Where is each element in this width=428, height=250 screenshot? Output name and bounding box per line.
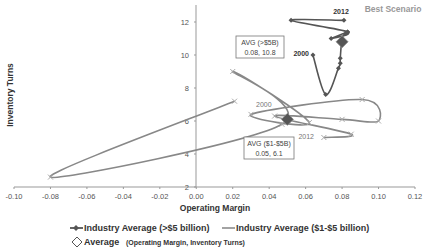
x-tick-label: 0.12: [408, 192, 423, 201]
y-tick-label: 12: [181, 18, 189, 27]
avg-mid-value: 0.05, 6.1: [255, 150, 282, 157]
series-large-companies: [289, 18, 351, 97]
diamond-marker-icon: [336, 66, 341, 71]
avg-large-label: AVG (>$5B): [241, 39, 278, 47]
legend-label-average: Average: [84, 237, 119, 247]
avg-large-annotation: AVG (>$5B) 0.08, 10.8: [236, 36, 284, 58]
x-tick-label: -0.04: [115, 192, 132, 201]
legend-sublabel-average: (Operating Margin, Inventory Turns): [126, 239, 245, 247]
diamond-marker-icon: [310, 53, 315, 58]
legend: Industry Average (>$5 billion) Industry …: [70, 223, 369, 247]
x-tick-label: -0.08: [42, 192, 59, 201]
legend-label-mid: Industry Average ($1-$5 billion): [236, 223, 369, 233]
diamond-marker-icon: [341, 18, 346, 23]
x-axis-title: Operating Margin: [180, 203, 250, 213]
x-tick-label: 0.00: [189, 192, 204, 201]
large-end-year-label: 2012: [333, 8, 349, 15]
x-tick-label: -0.06: [78, 192, 95, 201]
diamond-marker-icon: [338, 56, 343, 61]
diamond-marker-icon: [329, 36, 334, 41]
y-tick-labels: 24681012: [181, 18, 196, 192]
series-mid-companies: [48, 69, 381, 180]
legend-item-large: Industry Average (>$5 billion): [70, 223, 210, 233]
x-tick-label: 0.08: [335, 192, 350, 201]
legend-label-large: Industry Average (>$5 billion): [84, 223, 210, 233]
x-tick-label: -0.02: [151, 192, 168, 201]
x-tick-label: 0.04: [262, 192, 277, 201]
diamond-marker-icon: [73, 225, 79, 231]
y-axis-title: Inventory Turns: [5, 63, 15, 127]
legend-item-mid: Industry Average ($1-$5 billion): [222, 223, 369, 233]
x-tick-labels: -0.10-0.08-0.06-0.04-0.020.000.020.040.0…: [5, 187, 422, 201]
average-markers: [281, 36, 348, 126]
diamond-marker-icon: [338, 61, 343, 66]
hollow-diamond-icon: [72, 237, 82, 247]
y-tick-label: 8: [185, 84, 189, 93]
x-tick-label: 0.10: [371, 192, 386, 201]
best-scenario-label: Best Scenario: [365, 4, 422, 14]
x-tick-label: 0.02: [225, 192, 240, 201]
y-tick-label: 10: [181, 51, 189, 60]
avg-mid-label: AVG ($1-$5B): [247, 140, 290, 148]
x-tick-label: -0.10: [5, 192, 22, 201]
mid-end-year-label: 2012: [298, 133, 314, 140]
scatter-line-chart: -0.10-0.08-0.06-0.04-0.020.000.020.040.0…: [0, 0, 428, 250]
legend-item-average: Average (Operating Margin, Inventory Tur…: [72, 237, 245, 247]
avg-large-value: 0.08, 10.8: [244, 49, 275, 56]
avg-mid-annotation: AVG ($1-$5B) 0.05, 6.1: [244, 137, 294, 159]
diamond-marker-icon: [289, 18, 294, 23]
y-tick-label: 4: [185, 150, 189, 159]
large-start-year-label: 2000: [293, 50, 309, 57]
x-tick-label: 0.06: [298, 192, 313, 201]
mid-start-year-label: 2000: [256, 101, 272, 108]
y-tick-label: 2: [185, 183, 189, 192]
